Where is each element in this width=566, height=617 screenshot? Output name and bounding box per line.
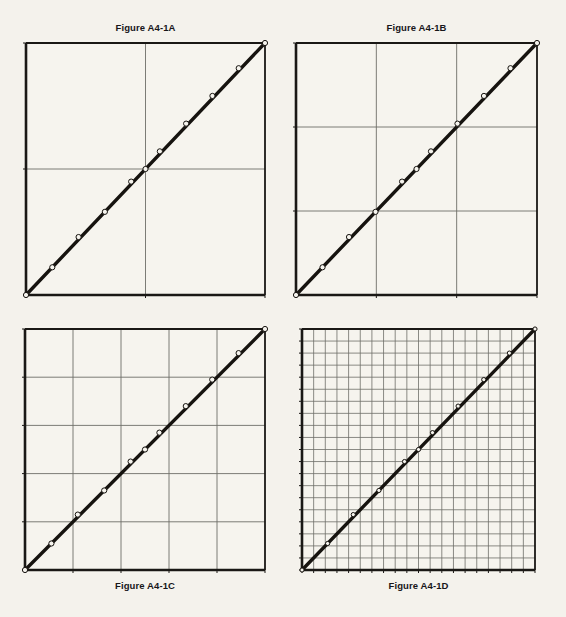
figure-c-svg [22,326,268,573]
figure-b-plot-area [293,40,540,298]
figure-a-title: Figure A4-1A [23,22,268,33]
figure-b-svg [293,40,540,298]
figure-sheet: Figure A4-1A Figure A4-1B Figure A4-1C F… [0,0,566,617]
figure-panel-b: Figure A4-1B [293,22,540,298]
figure-d-svg [299,326,538,573]
figure-panel-c: Figure A4-1C [22,326,268,591]
figure-d-title: Figure A4-1D [299,580,538,591]
figure-panel-d: Figure A4-1D [299,326,538,591]
figure-a-plot-area [23,40,268,298]
figure-d-plot-area [299,326,538,573]
figure-c-title: Figure A4-1C [22,580,268,591]
figure-b-title: Figure A4-1B [293,22,540,33]
figure-a-svg [23,40,268,298]
figure-c-plot-area [22,326,268,573]
figure-panel-a: Figure A4-1A [23,22,268,298]
